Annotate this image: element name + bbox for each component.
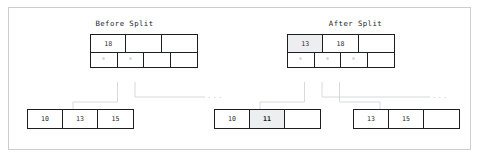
- leaf-cell: 10: [215, 110, 250, 128]
- ellipsis-before: ...: [207, 92, 224, 100]
- leaf-cell: 15: [98, 110, 133, 128]
- key-row: 13 18: [288, 35, 394, 52]
- leaf-node-before: 10 13 15: [27, 109, 134, 129]
- leaf-cell: 13: [354, 110, 389, 128]
- pointer-cell: [91, 53, 118, 68]
- leaf-cell: 15: [389, 110, 424, 128]
- pointer-row: [91, 52, 197, 68]
- key-cell: [162, 35, 197, 52]
- figure-frame: Before Split 18 10: [8, 7, 471, 150]
- leaf-cell: 13: [63, 110, 98, 128]
- key-cell-promoted: 13: [288, 35, 323, 52]
- leaf-cell: [424, 110, 459, 128]
- pointer-cell: [315, 53, 342, 68]
- panel-after-split: After Split 13 18: [240, 8, 471, 149]
- pointer-cell: [368, 53, 394, 68]
- panel-before-split: Before Split 18 10: [9, 8, 240, 149]
- key-cell: [126, 35, 161, 52]
- panel-title-after-split: After Split: [240, 19, 471, 28]
- leaf-cell: [285, 110, 320, 128]
- leaf-cell: 10: [28, 110, 63, 128]
- pointer-cell: [171, 53, 197, 68]
- pointer-row: [288, 52, 394, 68]
- key-row: 18: [91, 35, 197, 52]
- pointer-cell: [288, 53, 315, 68]
- pointer-cell: [341, 53, 368, 68]
- internal-node-before: 18: [90, 34, 198, 68]
- leaf-node-after-right: 13 15: [353, 109, 460, 129]
- panel-title-before-split: Before Split: [9, 19, 240, 28]
- ellipsis-after: ...: [432, 92, 449, 100]
- leaf-node-after-left: 10 11: [214, 109, 321, 129]
- key-cell: 18: [91, 35, 126, 52]
- key-cell: 18: [323, 35, 358, 52]
- leaf-cell-inserted: 11: [250, 110, 285, 128]
- pointer-cell: [118, 53, 145, 68]
- pointer-cell: [144, 53, 171, 68]
- key-cell: [359, 35, 394, 52]
- internal-node-after: 13 18: [287, 34, 395, 68]
